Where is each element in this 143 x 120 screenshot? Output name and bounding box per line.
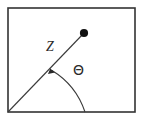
- angle-theta-label: Θ: [73, 63, 84, 77]
- vector-magnitude-label: Z: [46, 40, 54, 54]
- vector-endpoint-dot: [80, 29, 88, 37]
- diagram-canvas: [0, 0, 143, 120]
- vector-angle-diagram: Z Θ: [0, 0, 143, 120]
- figure-border: [8, 8, 135, 112]
